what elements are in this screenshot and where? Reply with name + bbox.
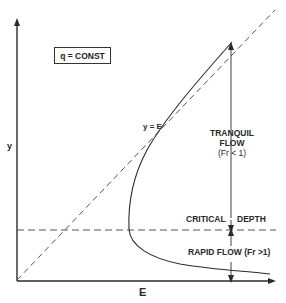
critical-label-left: CRITICAL (186, 214, 226, 224)
tranquil-flow-label: TRANQUIL FLOW (Fr < 1) (205, 128, 259, 158)
q-const-label: q = CONST (60, 51, 105, 61)
q-const-box: q = CONST (54, 47, 111, 64)
tranquil-line2: FLOW (205, 138, 259, 148)
y-equals-e-label: y = E (143, 122, 162, 131)
y-axis-label: y (7, 141, 12, 151)
critical-label-right: DEPTH (237, 214, 266, 224)
tranquil-line1: TRANQUIL (205, 128, 259, 138)
rapid-flow-label: RAPID FLOW (Fr >1) (188, 247, 270, 257)
tranquil-line3: (Fr < 1) (205, 148, 259, 158)
specific-energy-curve (129, 42, 270, 274)
x-axis-label: E (139, 286, 146, 298)
